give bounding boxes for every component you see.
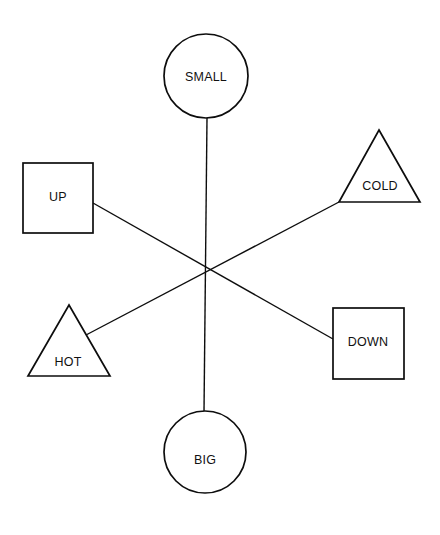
node-label-cold: COLD bbox=[362, 179, 398, 193]
node-label-hot: HOT bbox=[55, 355, 82, 369]
edge-cold-hot bbox=[86, 202, 339, 335]
diagram-canvas: SMALL UP COLD HOT DOWN BIG bbox=[0, 0, 440, 535]
edge-group bbox=[86, 118, 339, 412]
node-down[interactable]: DOWN bbox=[333, 308, 404, 379]
circle-shape bbox=[164, 411, 246, 493]
node-label-big: BIG bbox=[194, 453, 216, 467]
node-cold[interactable]: COLD bbox=[339, 130, 420, 202]
node-hot[interactable]: HOT bbox=[28, 305, 110, 376]
node-label-small: SMALL bbox=[185, 70, 227, 84]
node-label-up: UP bbox=[49, 190, 67, 204]
node-up[interactable]: UP bbox=[23, 163, 93, 233]
concept-diagram: SMALL UP COLD HOT DOWN BIG bbox=[0, 0, 440, 535]
edge-small-big bbox=[204, 118, 207, 412]
node-label-down: DOWN bbox=[348, 335, 388, 349]
node-big[interactable]: BIG bbox=[164, 411, 246, 493]
node-small[interactable]: SMALL bbox=[164, 34, 248, 118]
